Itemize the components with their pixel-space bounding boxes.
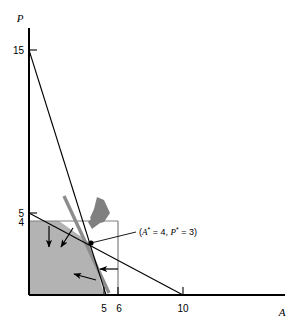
annot-a-eq: = 4,	[150, 227, 170, 237]
y-tick-label-4: 4	[18, 217, 24, 228]
x-tick-label-6: 6	[116, 303, 122, 314]
chart-canvas: P A 15 5 4 5 6 10 (A* = 4, P* = 3)	[0, 0, 297, 324]
figure-container: P A 15 5 4 5 6 10 (A* = 4, P* = 3)	[0, 0, 297, 324]
annotation-leader-line	[91, 232, 136, 243]
annot-close-paren: )	[194, 227, 197, 237]
annot-p-eq: = 3	[179, 227, 194, 237]
x-tick-label-5: 5	[101, 303, 107, 314]
p-axis-label: P	[16, 12, 24, 24]
y-tick-label-15: 15	[13, 45, 25, 56]
x-tick-label-10: 10	[177, 303, 189, 314]
optimum-annotation: (A* = 4, P* = 3)	[139, 226, 197, 237]
a-axis-label: A	[278, 306, 286, 318]
